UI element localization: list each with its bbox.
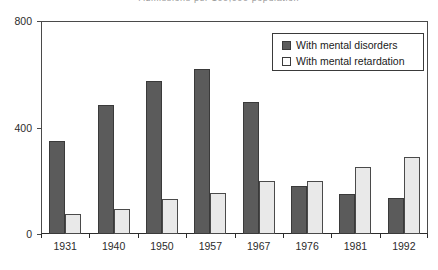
- bar: [210, 193, 226, 234]
- x-tick-mark: [138, 234, 139, 238]
- bar: [98, 105, 114, 234]
- legend-label-mental-retardation: With mental retardation: [296, 56, 405, 67]
- x-tick-mark: [89, 234, 90, 238]
- chart-legend: With mental disorders With mental retard…: [272, 33, 424, 71]
- x-tick-mark: [331, 234, 332, 238]
- y-tick-label: 800: [14, 16, 32, 27]
- bar: [339, 194, 355, 234]
- legend-swatch-dark-icon: [282, 41, 291, 50]
- y-tick-label: 0: [26, 229, 32, 240]
- legend-swatch-light-icon: [282, 57, 291, 66]
- x-tick-label: 1950: [150, 241, 173, 252]
- x-tick-label: 1976: [295, 241, 318, 252]
- bar: [307, 181, 323, 234]
- bar: [194, 69, 210, 234]
- bar: [114, 209, 130, 234]
- bar: [291, 186, 307, 234]
- legend-label-mental-disorders: With mental disorders: [296, 40, 398, 51]
- bar: [49, 141, 65, 234]
- chart-title: Admissions per 100,000 population: [0, 0, 438, 4]
- x-axis: 19311940195019571967197619811992: [41, 234, 428, 270]
- x-tick-mark: [186, 234, 187, 238]
- bar: [243, 102, 259, 234]
- bar: [404, 157, 420, 234]
- bar: [65, 214, 81, 234]
- x-tick-label: 1931: [54, 241, 77, 252]
- bar: [146, 81, 162, 234]
- x-tick-label: 1940: [102, 241, 125, 252]
- x-tick-label: 1967: [247, 241, 270, 252]
- x-tick-mark: [41, 234, 42, 238]
- x-tick-mark: [235, 234, 236, 238]
- x-tick-mark: [380, 234, 381, 238]
- bar-chart: Admissions per 100,000 population 040080…: [0, 0, 438, 270]
- x-tick-label: 1957: [199, 241, 222, 252]
- y-axis: 0400800: [0, 0, 41, 270]
- x-tick-label: 1981: [344, 241, 367, 252]
- x-tick-label: 1992: [392, 241, 415, 252]
- legend-item-mental-retardation: With mental retardation: [282, 54, 423, 69]
- bar: [355, 167, 371, 234]
- legend-item-mental-disorders: With mental disorders: [282, 38, 423, 53]
- y-tick-label: 400: [14, 123, 32, 134]
- x-tick-mark: [427, 234, 428, 238]
- x-tick-mark: [283, 234, 284, 238]
- bar: [259, 181, 275, 234]
- bar: [388, 198, 404, 234]
- bar: [162, 199, 178, 234]
